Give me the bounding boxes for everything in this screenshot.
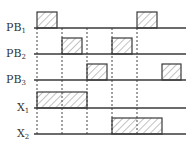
signal-label-pb2: PB2 <box>6 48 26 61</box>
signal-traces <box>34 12 186 134</box>
signal-label-pb1: PB1 <box>6 22 26 35</box>
signal-label-x1: X1 <box>17 102 29 115</box>
signal-pulse <box>162 64 181 80</box>
signal-pulse <box>87 64 107 80</box>
signal-label-x2: X2 <box>17 128 29 141</box>
signal-pulse <box>112 38 132 54</box>
signal-pulse <box>112 118 162 134</box>
signal-pulse <box>137 12 157 28</box>
signal-pulse <box>37 92 87 108</box>
signal-label-pb3: PB3 <box>6 74 26 87</box>
signal-pulse <box>62 38 82 54</box>
signal-pulse <box>37 12 57 28</box>
